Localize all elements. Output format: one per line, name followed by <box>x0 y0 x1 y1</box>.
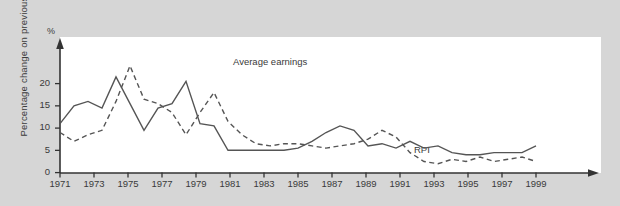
chart-figure: Percentage change on previous year % 20 … <box>0 0 620 206</box>
chart-svg <box>0 0 620 206</box>
axes-group <box>55 38 599 178</box>
x-axis-arrowhead <box>588 169 599 177</box>
y-axis-arrowhead <box>56 38 64 49</box>
series-line-rpi <box>60 66 536 164</box>
series-line-average-earnings <box>60 77 536 155</box>
